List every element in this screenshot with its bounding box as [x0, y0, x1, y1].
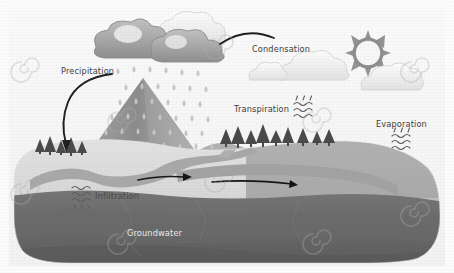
sun-core: [356, 41, 380, 65]
cloud-highlight-puff-b: [165, 35, 187, 49]
landmass: [10, 139, 444, 272]
water-cycle-illustration: Precipitation Condensation Transpiration…: [0, 0, 454, 273]
cloud-highlight-puff-a: [114, 25, 142, 43]
diagram-canvas: [0, 0, 454, 273]
